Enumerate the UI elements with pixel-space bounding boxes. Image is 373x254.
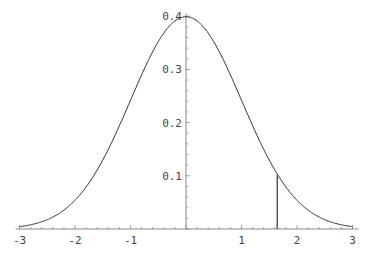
y-tick-label: 0.2	[162, 117, 182, 130]
y-tick-label: 0.1	[162, 170, 182, 183]
y-tick-label: 0.4	[162, 10, 182, 23]
x-tick-label: -3	[13, 234, 26, 247]
x-tick-label: -1	[124, 234, 137, 247]
y-tick-label: 0.3	[162, 63, 182, 76]
x-tick-label: 3	[349, 234, 356, 247]
x-tick-label: 2	[294, 234, 301, 247]
normal-distribution-chart: -3-2-11230.10.20.30.4	[0, 0, 373, 254]
x-tick-label: -2	[68, 234, 81, 247]
x-tick-label: 1	[238, 234, 245, 247]
tick-labels: -3-2-11230.10.20.30.4	[13, 10, 356, 247]
axes	[16, 14, 359, 229]
